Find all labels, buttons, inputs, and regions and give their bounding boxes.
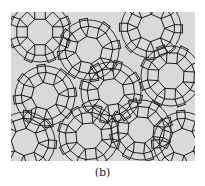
octagon-tile: [165, 88, 175, 89]
square-tile: [184, 71, 194, 72]
outer-square-tile: [177, 110, 185, 111]
square-tile: [148, 69, 149, 79]
octagon-tile: [183, 71, 184, 81]
octagon-tile: [158, 70, 159, 80]
tiling-diagram: [11, 12, 195, 161]
triangle-tile-edge: [177, 118, 185, 119]
square-tile: [164, 99, 174, 100]
square-tile: [194, 72, 195, 82]
outer-square-tile: [24, 110, 32, 111]
triangle-tile-edge: [23, 118, 31, 119]
square-tile: [177, 53, 178, 63]
square-tile: [148, 69, 158, 70]
square-tile: [175, 89, 176, 99]
outer-square-tile: [151, 140, 159, 141]
triangle-tile-edge: [159, 140, 160, 148]
figure-caption: (b): [0, 166, 205, 179]
square-tile: [164, 88, 165, 98]
figure: (b): [0, 0, 205, 186]
octagon-tile: [166, 63, 176, 64]
square-tile: [183, 82, 193, 83]
outer-square-tile: [49, 140, 57, 141]
outer-square-tile: [151, 140, 152, 148]
outer-square-tile: [56, 141, 57, 149]
triangle-tile-edge: [48, 140, 49, 148]
square-tile: [148, 80, 158, 81]
outer-square-tile: [185, 110, 186, 118]
